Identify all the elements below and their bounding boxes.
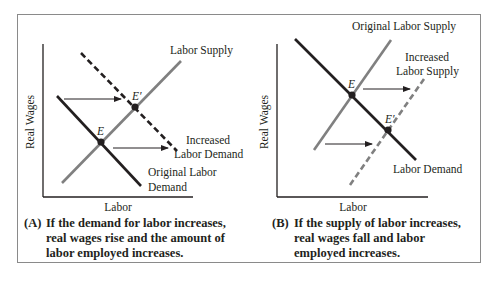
- panel-a: Real Wages Labor Labor Supply Increased …: [24, 44, 244, 213]
- panel-b-demand-curve: [295, 39, 416, 160]
- panel-b-e-prime-label: E′: [384, 113, 395, 125]
- panel-a-y-axis-label: Real Wages: [24, 94, 37, 149]
- panel-b-x-axis-label: Labor: [339, 201, 367, 213]
- panel-b-caption-tag: (B): [272, 216, 289, 231]
- panel-b-equilibrium-e: [348, 91, 355, 98]
- panel-a-caption-tag: (A): [24, 216, 41, 231]
- panel-a-increased-demand-label-1: Increased: [186, 134, 230, 146]
- panel-a-increased-demand-label-2: Labor Demand: [174, 148, 244, 160]
- panel-a-equilibrium-e: [97, 138, 104, 145]
- panel-a-original-demand-label-2: Demand: [148, 181, 187, 193]
- panel-a-original-demand-label-1: Original Labor: [148, 166, 217, 179]
- panel-a-x-axis-label: Labor: [104, 201, 132, 213]
- panel-b-y-axis-label: Real Wages: [258, 94, 271, 149]
- panel-b-increased-supply-label-1: Increased: [405, 51, 449, 63]
- panel-a-caption-text: If the demand for labor increases, real …: [46, 216, 239, 261]
- panel-b-e-label: E: [347, 78, 355, 90]
- panel-a-e-label: E: [96, 125, 104, 137]
- panel-b-equilibrium-e-prime: [384, 126, 391, 133]
- panel-a-e-prime-label: E′: [131, 90, 142, 102]
- panel-b-original-supply-label: Original Labor Supply: [352, 20, 456, 33]
- panel-a-labor-supply-label: Labor Supply: [170, 44, 233, 57]
- panel-a-caption: (A) If the demand for labor increases, r…: [24, 216, 239, 261]
- panel-b-demand-label: Labor Demand: [393, 163, 463, 175]
- panel-b-caption: (B) If the supply of labor increases, re…: [272, 216, 472, 261]
- panel-b-caption-text: If the supply of labor increases, real w…: [294, 216, 472, 261]
- panel-b-increased-supply-label-2: Labor Supply: [396, 65, 459, 78]
- panel-b: Real Wages Labor Original Labor Supply I…: [258, 20, 463, 213]
- panel-a-equilibrium-e-prime: [131, 103, 138, 110]
